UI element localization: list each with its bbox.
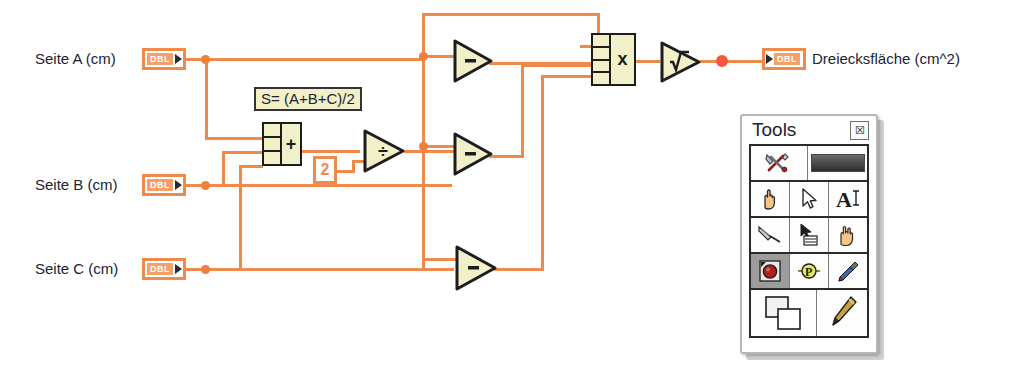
connect-wire-tool-icon[interactable] — [751, 218, 790, 252]
wire-subc-out2 — [541, 75, 544, 271]
tools-palette-title: Tools — [752, 120, 796, 140]
wire-mul-to-sqrt — [635, 60, 660, 63]
scroll-window-tool-icon[interactable] — [829, 218, 867, 252]
svg-text:P: P — [805, 265, 812, 279]
wire-a-out — [184, 58, 424, 61]
formula-label[interactable]: S= (A+B+C)/2 — [254, 87, 362, 111]
control-c-datatype: DBL — [147, 263, 173, 275]
get-color-tool-icon[interactable] — [829, 254, 867, 288]
junction-c — [201, 265, 210, 274]
wire-b-to-add — [222, 151, 263, 154]
probe-data-tool-icon[interactable]: P — [790, 254, 829, 288]
tools-row-4 — [751, 290, 867, 336]
tools-row-1: A — [751, 182, 867, 218]
wire-subc-out1 — [494, 268, 544, 271]
indicator-terminal[interactable]: DBL — [762, 48, 806, 70]
add-operator-symbol: + — [282, 124, 300, 164]
multiply-input-slot-4 — [593, 73, 609, 84]
subtract-b-operator-symbol — [465, 152, 476, 156]
wire-b-up — [222, 151, 225, 187]
block-diagram-canvas: Seite A (cm) DBL Seite B (cm) DBL Seite … — [0, 0, 1021, 384]
wire-subb-out1 — [489, 155, 524, 158]
subtract-node-a[interactable] — [452, 38, 494, 84]
junction-s-subA — [419, 52, 428, 61]
wire-add-to-divide — [300, 150, 360, 153]
compound-multiply-node[interactable]: x — [591, 33, 636, 86]
wire-subb-out3 — [521, 64, 593, 67]
divide-node[interactable]: ÷ — [362, 128, 406, 174]
wire-sqrt-to-out — [700, 60, 762, 63]
compound-add-node[interactable]: + — [262, 122, 302, 166]
wire-subb-out2 — [521, 64, 524, 158]
edit-text-tool-icon[interactable]: A — [829, 182, 867, 216]
wire-subc-out3 — [541, 75, 593, 78]
wire-a-to-add — [205, 137, 263, 140]
wire-c-to-add — [239, 165, 263, 168]
control-a-arrow-icon — [175, 54, 182, 64]
set-color-tool-icon[interactable] — [751, 290, 817, 336]
indicator-arrow-icon — [766, 54, 773, 64]
add-input-slot-3 — [264, 152, 280, 164]
control-a-terminal[interactable]: DBL — [142, 48, 186, 70]
automatic-tool-led — [811, 154, 865, 172]
indicator-label: Dreiecksfläche (cm^2) — [812, 50, 960, 68]
wire-s-to-sub-c — [422, 258, 457, 261]
control-c-label: Seite C (cm) — [35, 260, 118, 278]
square-root-node[interactable] — [659, 40, 703, 84]
wire-a-down — [205, 58, 208, 140]
set-clear-breakpoint-tool-icon[interactable] — [751, 254, 790, 288]
tools-row-2 — [751, 218, 867, 254]
object-shortcut-menu-tool-icon[interactable] — [790, 218, 829, 252]
automatic-tool-indicator[interactable] — [808, 146, 867, 180]
svg-text:A: A — [836, 187, 852, 211]
junction-s-subB — [419, 142, 428, 151]
wire-c-out — [184, 268, 454, 271]
control-a-label: Seite A (cm) — [35, 50, 116, 68]
wire-s-top — [422, 13, 600, 16]
control-c-terminal[interactable]: DBL — [142, 258, 186, 280]
tools-row-auto — [751, 146, 867, 182]
wire-c-up — [239, 165, 242, 271]
multiply-input-slot-1 — [593, 35, 609, 48]
position-size-select-tool-icon[interactable] — [790, 182, 829, 216]
wire-s-out — [404, 150, 459, 153]
add-input-slots — [264, 124, 282, 164]
control-b-arrow-icon — [175, 180, 182, 190]
subtract-node-b[interactable] — [452, 131, 494, 177]
control-c-arrow-icon — [175, 264, 182, 274]
control-b-label: Seite B (cm) — [35, 176, 118, 194]
numeric-constant-2[interactable]: 2 — [313, 156, 337, 184]
tools-palette[interactable]: Tools ☒ — [740, 114, 878, 354]
control-b-datatype: DBL — [147, 179, 173, 191]
tools-palette-titlebar[interactable]: Tools ☒ — [742, 116, 876, 144]
tools-row-3: P — [751, 254, 867, 290]
multiply-input-slot-2 — [593, 48, 609, 61]
close-icon[interactable]: ☒ — [850, 121, 869, 140]
control-a-datatype: DBL — [147, 53, 173, 65]
tools-palette-grid: A — [749, 144, 869, 338]
multiply-input-slot-3 — [593, 61, 609, 74]
operate-value-tool-icon[interactable] — [751, 182, 790, 216]
subtract-a-operator-symbol — [465, 59, 476, 63]
paint-tool-icon[interactable] — [817, 290, 867, 336]
multiply-input-slots — [593, 35, 611, 84]
indicator-datatype: DBL — [774, 53, 800, 65]
automatic-tool-selection-icon[interactable] — [751, 146, 808, 180]
subtract-c-operator-symbol — [468, 266, 479, 270]
control-b-terminal[interactable]: DBL — [142, 174, 186, 196]
add-input-slot-2 — [264, 138, 280, 152]
junction-sqrt-output — [716, 55, 728, 67]
subtract-node-c[interactable] — [454, 244, 498, 292]
junction-a — [201, 55, 210, 64]
divide-operator-symbol: ÷ — [378, 142, 388, 162]
junction-b — [201, 181, 210, 190]
multiply-operator-symbol: x — [611, 35, 634, 84]
add-input-slot-1 — [264, 124, 280, 138]
